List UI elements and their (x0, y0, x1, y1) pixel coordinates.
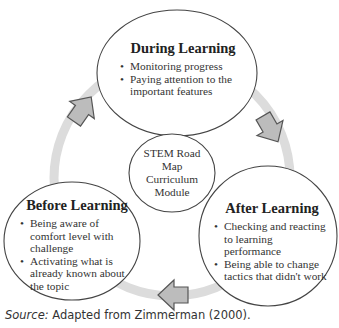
bullet: Being able to change tactics that didn't… (224, 258, 332, 283)
node-bullets: Monitoring progress Paying attention to … (118, 60, 248, 98)
node-title: During Learning (118, 40, 248, 57)
center-line: Curriculum (129, 173, 215, 186)
bullet: Paying attention to the important featur… (130, 73, 248, 98)
source-label: Source: (5, 308, 49, 322)
source-caption: Source: Adapted from Zimmerman (2000). (5, 308, 251, 322)
after-learning-node: After Learning Checking and reacting to … (212, 200, 332, 283)
bullet: Monitoring progress (130, 60, 248, 73)
center-line: STEM Road (129, 147, 215, 160)
center-label: STEM Road Map Curriculum Module (129, 147, 215, 199)
node-bullets: Being aware of comfort level with challe… (18, 217, 136, 292)
node-title: After Learning (212, 200, 332, 217)
node-title: Before Learning (18, 197, 136, 214)
bullet: Checking and reacting to learning perfor… (224, 220, 332, 258)
before-learning-node: Before Learning Being aware of comfort l… (18, 197, 136, 292)
arrow-left-icon (158, 280, 188, 310)
center-line: Map (129, 160, 215, 173)
during-learning-node: During Learning Monitoring progress Payi… (118, 40, 248, 98)
node-bullets: Checking and reacting to learning perfor… (212, 220, 332, 283)
bullet: Activating what is already known about t… (30, 255, 136, 293)
source-text: Adapted from Zimmerman (2000). (49, 308, 251, 322)
center-line: Module (129, 186, 215, 199)
bullet: Being aware of comfort level with challe… (30, 217, 136, 255)
